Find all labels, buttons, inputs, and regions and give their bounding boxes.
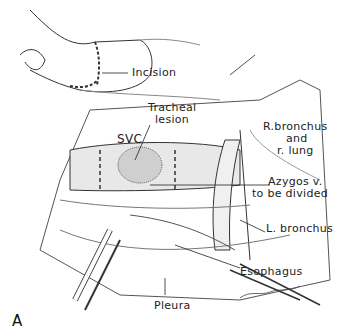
panel-label: A (12, 312, 22, 330)
label-r-bronchus-line3: r. lung (277, 145, 314, 157)
patient-arm-drawing (20, 10, 220, 100)
label-tracheal-lesion-line2: lesion (155, 114, 189, 126)
label-pleura: Pleura (154, 300, 191, 312)
surgical-illustration (0, 0, 356, 336)
label-l-bronchus: L. bronchus (266, 223, 333, 235)
label-esophagus: Esophagus (240, 266, 303, 278)
label-azygos-line2: to be divided (252, 188, 328, 200)
label-svc: SVC (117, 133, 142, 145)
label-incision: Incision (132, 67, 176, 79)
